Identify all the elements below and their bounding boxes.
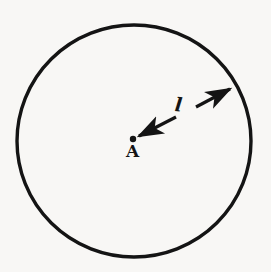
geometry-figure: A l bbox=[0, 0, 271, 272]
center-point-label: A bbox=[126, 143, 139, 160]
diagram-canvas bbox=[0, 0, 271, 272]
radius-arrow-inner-segment bbox=[139, 117, 176, 136]
radius-arrow-outer-segment bbox=[196, 89, 230, 107]
